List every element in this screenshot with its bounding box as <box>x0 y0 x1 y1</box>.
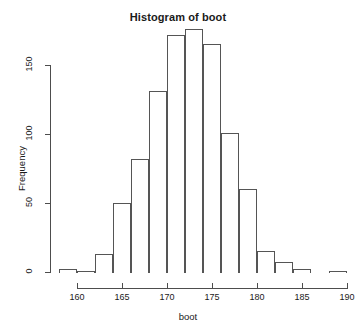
histogram-bar <box>257 251 275 273</box>
histogram-bar <box>149 91 167 273</box>
y-tick-label: 0 <box>24 251 34 291</box>
x-tick-label: 170 <box>147 292 187 302</box>
histogram-bar <box>275 262 293 273</box>
histogram-bar <box>77 271 95 273</box>
histogram-bar <box>95 254 113 273</box>
histogram-bar <box>167 35 185 273</box>
histogram-bar <box>131 159 149 273</box>
y-axis-line <box>50 65 51 273</box>
histogram-bar <box>185 29 203 273</box>
x-tick-mark <box>212 283 213 288</box>
x-tick-mark <box>77 283 78 288</box>
x-tick-label: 160 <box>57 292 97 302</box>
x-axis-line <box>77 288 348 289</box>
x-axis-title: boot <box>158 311 218 322</box>
y-tick-mark <box>45 272 50 273</box>
x-tick-mark <box>167 283 168 288</box>
histogram-bar <box>221 133 239 273</box>
y-tick-mark <box>45 134 50 135</box>
x-tick-label: 180 <box>237 292 277 302</box>
histogram-bar <box>203 44 221 273</box>
x-tick-mark <box>122 283 123 288</box>
x-tick-label: 175 <box>192 292 232 302</box>
y-axis-title: Frequency <box>16 139 27 199</box>
x-tick-label: 185 <box>282 292 322 302</box>
x-tick-label: 190 <box>327 292 356 302</box>
x-tick-mark <box>302 283 303 288</box>
x-tick-label: 165 <box>102 292 142 302</box>
histogram-bar <box>113 203 131 273</box>
y-tick-mark <box>45 203 50 204</box>
histogram-bar <box>293 269 311 273</box>
plot-area: 050100150 160165170175180185190 Frequenc… <box>0 0 356 333</box>
histogram-bar <box>329 271 347 273</box>
x-tick-mark <box>347 283 348 288</box>
histogram-bar <box>239 189 257 273</box>
histogram-chart: Histogram of boot 050100150 160165170175… <box>0 0 356 333</box>
y-tick-mark <box>45 65 50 66</box>
y-tick-label: 150 <box>24 44 34 84</box>
histogram-bar <box>59 269 77 273</box>
x-tick-mark <box>257 283 258 288</box>
